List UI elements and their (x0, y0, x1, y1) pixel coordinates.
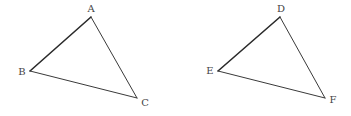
vertex-label-f: F (330, 94, 337, 105)
vertex-label-a: A (86, 3, 95, 14)
edge-fd (280, 17, 325, 98)
edge-ab (30, 17, 91, 71)
edge-ef (218, 71, 325, 98)
edge-ca (91, 17, 137, 98)
vertex-label-d: D (277, 3, 285, 14)
vertex-label-b: B (18, 66, 25, 77)
edge-bc (30, 71, 137, 98)
vertex-label-e: E (206, 65, 213, 76)
vertex-label-c: C (141, 97, 149, 108)
diagram-canvas: A B C D E F (0, 0, 351, 116)
triangle-def: D E F (206, 3, 336, 105)
edge-de (218, 17, 280, 71)
triangle-abc: A B C (18, 3, 149, 108)
